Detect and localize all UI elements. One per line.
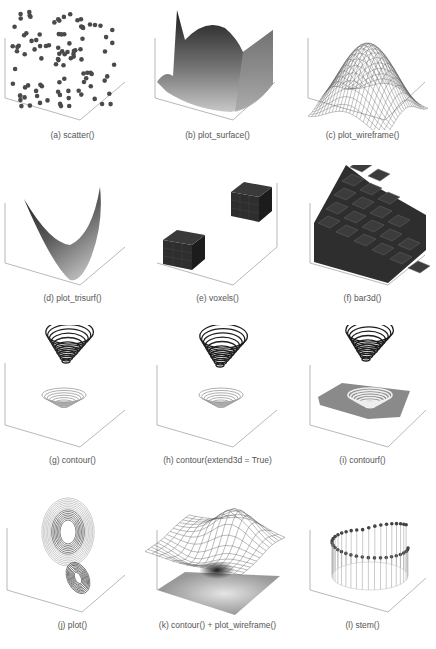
caption-a: (a) scatter() [0, 130, 145, 140]
caption-b: (b) plot_surface() [145, 130, 290, 140]
trisurf-plot [0, 165, 145, 293]
contour-wireframe-plot [145, 490, 290, 618]
figure-grid: (a) scatter() (b) plot_surface() [0, 0, 436, 649]
contourf-plot [290, 325, 436, 455]
caption-e: (e) voxels() [145, 293, 290, 303]
panel-line3d: (j) plot() [0, 490, 145, 649]
caption-c: (c) plot_wireframe() [290, 130, 435, 140]
caption-f: (f) bar3d() [290, 293, 435, 303]
caption-h: (h) contour(extend3d = True) [145, 455, 290, 465]
panel-scatter: (a) scatter() [0, 0, 145, 162]
wireframe-plot [290, 0, 436, 130]
voxel-cube-2 [231, 182, 272, 222]
line3d-plot [0, 490, 145, 618]
panel-bar3d: (f) bar3d() [290, 165, 435, 327]
contour-extend3d-plot [145, 325, 290, 455]
caption-g: (g) contour() [0, 455, 145, 465]
bar3d-plot [290, 165, 436, 293]
surface-plot [145, 0, 290, 130]
scatter-plot [0, 0, 145, 130]
caption-d: (d) plot_trisurf() [0, 293, 145, 303]
panel-contour-extend3d: (h) contour(extend3d = True) [145, 325, 290, 487]
voxels-plot [145, 165, 290, 293]
panel-contour-wireframe: (k) contour() + plot_wireframe() [145, 490, 290, 649]
panel-contour: (g) contour() [0, 325, 145, 487]
panel-contourf: (i) contourf() [290, 325, 435, 487]
voxel-cube-1 [163, 230, 205, 270]
panel-wireframe: (c) plot_wireframe() [290, 0, 435, 162]
stem-plot [290, 490, 436, 618]
panel-trisurf: (d) plot_trisurf() [0, 165, 145, 327]
caption-l: (l) stem() [290, 620, 435, 630]
caption-j: (j) plot() [0, 620, 145, 630]
contour-plot [0, 325, 145, 455]
panel-surface: (b) plot_surface() [145, 0, 290, 162]
caption-k: (k) contour() + plot_wireframe() [145, 620, 290, 630]
panel-voxels: (e) voxels() [145, 165, 290, 327]
caption-i: (i) contourf() [290, 455, 435, 465]
panel-stem: (l) stem() [290, 490, 435, 649]
